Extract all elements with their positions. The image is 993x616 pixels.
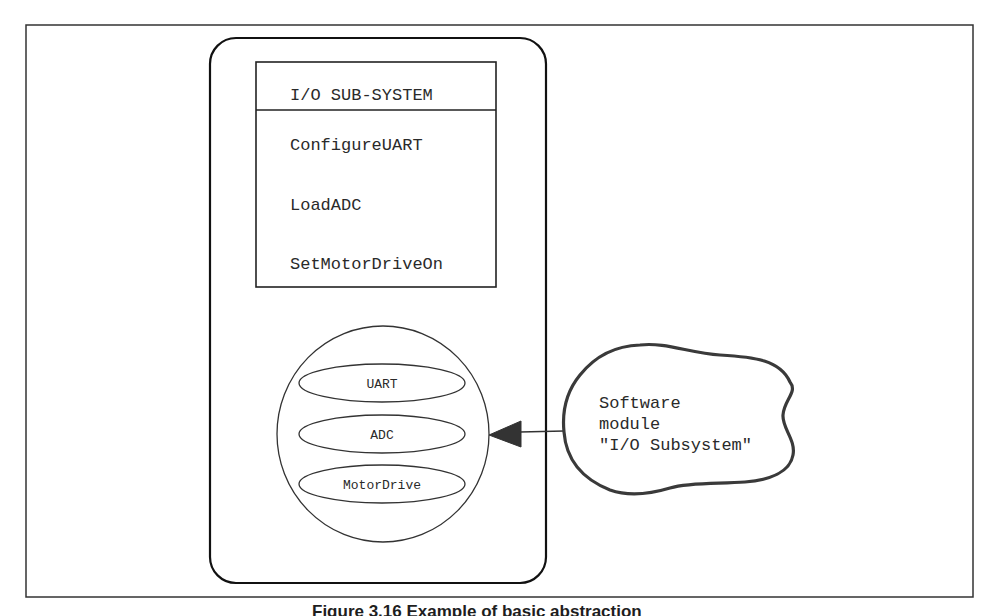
diagram-canvas: I/O SUB-SYSTEM ConfigureUART LoadADC Set… — [0, 0, 993, 616]
figure: I/O SUB-SYSTEM ConfigureUART LoadADC Set… — [0, 0, 993, 616]
pointer-arrow — [489, 421, 564, 447]
operation-configure-uart: ConfigureUART — [290, 136, 423, 155]
cloud-line-software: Software — [599, 394, 681, 413]
arrow-shaft — [520, 431, 564, 432]
cloud-callout: Software module "I/O Subsystem" — [564, 344, 794, 494]
figure-caption: Figure 3.16 Example of basic abstraction — [312, 602, 712, 616]
component-adc-label: ADC — [370, 428, 394, 443]
subsystem-box: I/O SUB-SYSTEM ConfigureUART LoadADC Set… — [256, 62, 496, 287]
component-motordrive-label: MotorDrive — [343, 478, 421, 493]
outer-frame — [26, 25, 973, 597]
cloud-line-module: module — [599, 415, 660, 434]
operation-load-adc: LoadADC — [290, 196, 361, 215]
module-circle: UART ADC MotorDrive — [277, 326, 489, 542]
cloud-shape — [564, 344, 794, 494]
cloud-line-subsystem: "I/O Subsystem" — [599, 436, 752, 455]
subsystem-title: I/O SUB-SYSTEM — [290, 86, 433, 105]
component-uart-label: UART — [366, 377, 397, 392]
arrowhead-icon — [489, 421, 521, 447]
operation-set-motor-drive-on: SetMotorDriveOn — [290, 255, 443, 274]
